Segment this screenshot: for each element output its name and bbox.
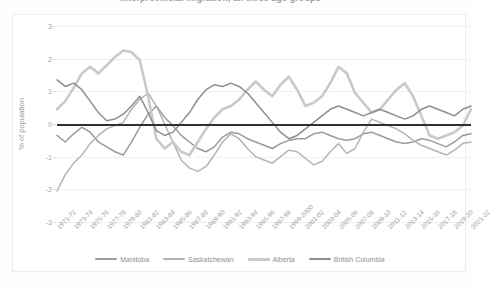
legend-item-saskatchewan[interactable]: Saskatchewan <box>163 256 234 263</box>
y-tick-label: 0 <box>48 121 52 128</box>
legend-label: British Columbia <box>334 256 385 263</box>
y-axis-title: % of population <box>17 98 26 150</box>
y-tick-mark <box>52 26 56 27</box>
series-line-alberta <box>57 51 471 156</box>
chart-title-clipped: interprovincial migration, all three age… <box>0 0 476 8</box>
legend-swatch-icon <box>248 258 270 261</box>
legend-item-alberta[interactable]: Alberta <box>248 256 295 263</box>
y-tick-mark <box>52 91 56 92</box>
y-tick-mark <box>52 124 56 125</box>
legend-item-manitoba[interactable]: Manitoba <box>95 256 149 263</box>
legend-swatch-icon <box>95 258 117 260</box>
y-tick-label: 2 <box>48 55 52 62</box>
y-tick-label: -2 <box>46 186 52 193</box>
zero-line <box>57 124 471 126</box>
y-tick-mark <box>52 157 56 158</box>
y-tick-label: -3 <box>46 219 52 226</box>
y-tick-mark <box>52 189 56 190</box>
chart-frame: % of population 3210-1-2-3 1971-721973-7… <box>12 14 466 272</box>
y-tick-mark <box>52 59 56 60</box>
legend-item-british-columbia[interactable]: British Columbia <box>309 256 385 263</box>
y-tick-label: 3 <box>48 23 52 30</box>
legend-label: Saskatchewan <box>188 256 234 263</box>
legend-swatch-icon <box>163 258 185 260</box>
plot-area: % of population 3210-1-2-3 <box>57 26 471 222</box>
legend-label: Alberta <box>273 256 295 263</box>
y-tick-label: -1 <box>46 153 52 160</box>
y-tick-mark <box>52 222 56 223</box>
chart-legend: ManitobaSaskatchewanAlbertaBritish Colum… <box>13 251 467 267</box>
legend-swatch-icon <box>309 258 331 260</box>
series-line-saskatchewan <box>57 93 471 191</box>
y-tick-label: 1 <box>48 88 52 95</box>
chart-title: interprovincial migration, all three age… <box>120 0 321 3</box>
legend-label: Manitoba <box>120 256 149 263</box>
